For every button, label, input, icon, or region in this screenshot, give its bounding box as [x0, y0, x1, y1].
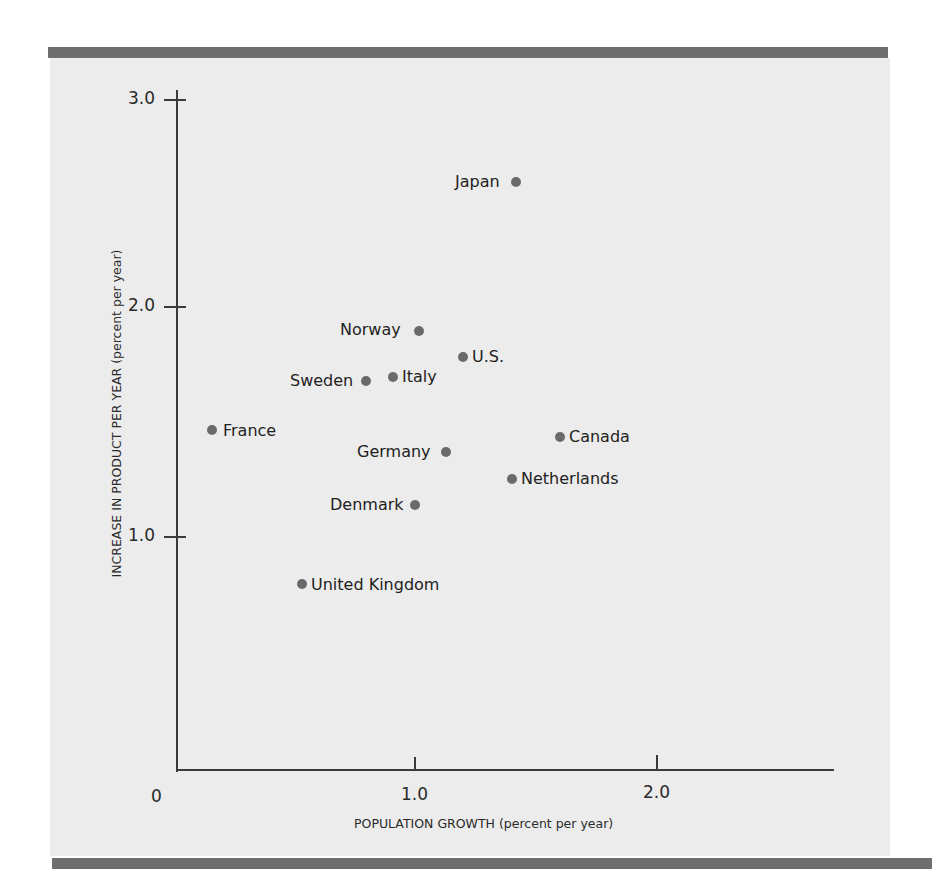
- y-tick-label: 2.0: [128, 295, 155, 315]
- point-label-norway: Norway: [340, 321, 401, 339]
- x-tick-label: 1.0: [401, 784, 428, 804]
- y-axis-title: INCREASE IN PRODUCT PER YEAR (percent pe…: [109, 219, 124, 609]
- data-point-japan: [511, 177, 521, 187]
- point-label-denmark: Denmark: [330, 496, 404, 514]
- data-point-sweden: [361, 376, 371, 386]
- x-tick-label: 0: [151, 786, 162, 806]
- data-point-italy: [388, 372, 398, 382]
- point-label-netherlands: Netherlands: [521, 470, 619, 488]
- y-tick-label: 3.0: [128, 88, 155, 108]
- point-label-united-kingdom: United Kingdom: [311, 576, 439, 594]
- x-tick-1: [414, 757, 416, 771]
- y-axis: [176, 90, 178, 772]
- point-label-canada: Canada: [569, 428, 630, 446]
- bottom-rule: [52, 858, 932, 869]
- x-axis: [176, 769, 834, 771]
- x-tick-2: [656, 755, 658, 769]
- data-point-canada: [555, 432, 565, 442]
- point-label-germany: Germany: [357, 443, 431, 461]
- point-label-us: U.S.: [472, 348, 504, 366]
- y-tick-2: [164, 306, 186, 308]
- data-point-norway: [414, 326, 424, 336]
- y-tick-label: 1.0: [128, 525, 155, 545]
- point-label-japan: Japan: [455, 173, 500, 191]
- y-tick-1: [164, 536, 186, 538]
- data-point-germany: [441, 447, 451, 457]
- y-tick-3: [164, 99, 186, 101]
- data-point-united-kingdom: [297, 579, 307, 589]
- x-axis-title: POPULATION GROWTH (percent per year): [354, 816, 613, 831]
- data-point-netherlands: [507, 474, 517, 484]
- point-label-sweden: Sweden: [290, 372, 353, 390]
- data-point-denmark: [410, 500, 420, 510]
- point-label-france: France: [223, 422, 276, 440]
- data-point-us: [458, 352, 468, 362]
- top-rule: [48, 47, 888, 58]
- x-tick-label: 2.0: [643, 782, 670, 802]
- point-label-italy: Italy: [402, 368, 437, 386]
- data-point-france: [207, 425, 217, 435]
